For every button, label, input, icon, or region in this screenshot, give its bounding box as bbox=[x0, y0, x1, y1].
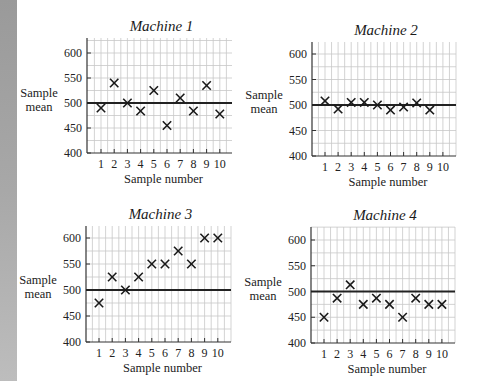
y-tick-label: 450 bbox=[288, 310, 306, 324]
x-axis-label: Sample number bbox=[124, 172, 204, 186]
y-tick-label: 450 bbox=[64, 121, 82, 135]
grid bbox=[311, 227, 455, 343]
x-tick-label: 2 bbox=[111, 157, 117, 171]
y-tick-label: 550 bbox=[64, 71, 82, 85]
x-tick-label: 5 bbox=[373, 347, 379, 361]
x-tick-label: 10 bbox=[212, 346, 224, 360]
y-tick-label: 550 bbox=[288, 259, 306, 273]
x-tick-label: 1 bbox=[96, 346, 102, 360]
y-tick-label: 500 bbox=[64, 96, 82, 110]
x-tick-label: 1 bbox=[321, 347, 327, 361]
x-tick-label: 5 bbox=[149, 346, 155, 360]
y-tick-label: 400 bbox=[288, 336, 306, 350]
y-tick-label: 550 bbox=[289, 73, 307, 87]
y-tick-label: 550 bbox=[63, 257, 81, 271]
chart-title: Machine 4 bbox=[352, 207, 417, 223]
y-tick-label: 500 bbox=[288, 285, 306, 299]
y-axis-label: mean bbox=[25, 100, 53, 114]
x-tick-label: 2 bbox=[109, 346, 115, 360]
x-tick-label: 6 bbox=[388, 160, 394, 174]
x-tick-label: 10 bbox=[214, 157, 226, 171]
x-tick-label: 10 bbox=[437, 160, 449, 174]
x-tick-label: 3 bbox=[347, 347, 353, 361]
chart-title: Machine 1 bbox=[129, 18, 194, 34]
x-tick-label: 9 bbox=[202, 346, 208, 360]
x-tick-label: 3 bbox=[122, 346, 128, 360]
grid bbox=[87, 38, 232, 153]
y-tick-label: 450 bbox=[63, 309, 81, 323]
x-axis-label: Sample number bbox=[348, 362, 428, 376]
y-tick-label: 450 bbox=[289, 124, 307, 138]
x-tick-label: 7 bbox=[400, 347, 406, 361]
x-tick-label: 5 bbox=[374, 160, 380, 174]
x-tick-label: 4 bbox=[360, 347, 366, 361]
grid bbox=[86, 226, 231, 342]
x-tick-label: 6 bbox=[164, 157, 170, 171]
chart-panel-2: 40045050055060012345678910Machine 2Sampl… bbox=[245, 22, 456, 189]
x-tick-label: 8 bbox=[413, 347, 419, 361]
y-tick-label: 500 bbox=[63, 283, 81, 297]
x-tick-label: 9 bbox=[427, 160, 433, 174]
y-axis-label: Sample bbox=[245, 88, 283, 102]
y-tick-label: 600 bbox=[289, 47, 307, 61]
chart-panel-4: 40045050055060012345678910Machine 4Sampl… bbox=[244, 207, 455, 376]
x-tick-label: 4 bbox=[361, 160, 367, 174]
x-axis-label: Sample number bbox=[349, 175, 429, 189]
x-tick-label: 7 bbox=[175, 346, 181, 360]
x-tick-label: 8 bbox=[188, 346, 194, 360]
x-tick-label: 4 bbox=[136, 346, 142, 360]
y-axis-label: mean bbox=[249, 289, 277, 303]
x-tick-label: 6 bbox=[387, 347, 393, 361]
y-axis-label: mean bbox=[250, 102, 278, 116]
chart-title: Machine 2 bbox=[353, 22, 418, 38]
x-tick-label: 8 bbox=[190, 157, 196, 171]
x-tick-label: 8 bbox=[414, 160, 420, 174]
x-tick-label: 5 bbox=[151, 157, 157, 171]
x-tick-label: 10 bbox=[436, 347, 448, 361]
chart-panel-3: 40045050055060012345678910Machine 3Sampl… bbox=[19, 206, 231, 375]
x-axis-label: Sample number bbox=[123, 361, 203, 375]
x-tick-label: 3 bbox=[124, 157, 130, 171]
y-tick-label: 600 bbox=[288, 233, 306, 247]
x-tick-label: 6 bbox=[162, 346, 168, 360]
y-tick-label: 500 bbox=[289, 98, 307, 112]
x-tick-label: 1 bbox=[322, 160, 328, 174]
x-tick-label: 7 bbox=[401, 160, 407, 174]
y-tick-label: 400 bbox=[63, 335, 81, 349]
x-tick-label: 2 bbox=[335, 160, 341, 174]
x-tick-label: 9 bbox=[426, 347, 432, 361]
x-tick-label: 9 bbox=[204, 157, 210, 171]
y-tick-label: 600 bbox=[63, 231, 81, 245]
x-tick-label: 3 bbox=[348, 160, 354, 174]
y-axis-label: mean bbox=[24, 287, 52, 301]
y-tick-label: 400 bbox=[64, 146, 82, 160]
y-axis-label: Sample bbox=[244, 275, 282, 289]
chart-panel-1: 40045050055060012345678910Machine 1Sampl… bbox=[20, 18, 232, 186]
x-tick-label: 7 bbox=[177, 157, 183, 171]
y-tick-label: 600 bbox=[64, 46, 82, 60]
grid bbox=[312, 42, 456, 156]
x-tick-label: 4 bbox=[138, 157, 144, 171]
y-axis-label: Sample bbox=[19, 273, 57, 287]
x-tick-label: 2 bbox=[334, 347, 340, 361]
y-axis-label: Sample bbox=[20, 86, 58, 100]
chart-title: Machine 3 bbox=[128, 206, 193, 222]
y-tick-label: 400 bbox=[289, 149, 307, 163]
machine-charts-figure: 40045050055060012345678910Machine 1Sampl… bbox=[0, 0, 480, 390]
x-tick-label: 1 bbox=[98, 157, 104, 171]
